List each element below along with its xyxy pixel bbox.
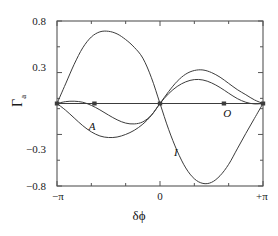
ytick-label-2: −0.3: [8, 143, 46, 155]
xtick-label-0: −π: [42, 190, 74, 202]
data-marker: [92, 102, 96, 106]
y-axis-title-symbol: Γ: [10, 99, 25, 107]
xtick-label-1: 0: [144, 190, 176, 202]
data-marker: [158, 102, 162, 106]
y-axis-title: Γa: [10, 75, 28, 127]
data-marker: [261, 102, 265, 106]
data-marker: [55, 102, 59, 106]
figure-container: 0.8 0.3 −0.3 −0.8 −π 0 +π Γa δϕ A I O: [0, 0, 278, 236]
curve-label-I: I: [174, 146, 178, 158]
xtick-label-2: +π: [246, 190, 278, 202]
curve-big-lobe: [57, 31, 263, 184]
ytick-label-3: −0.8: [8, 180, 46, 192]
data-marker: [222, 102, 226, 106]
x-axis-title: δϕ: [0, 208, 278, 224]
curve-label-A: A: [89, 120, 96, 132]
curve-label-O: O: [223, 107, 231, 119]
y-axis-title-wrap: Γa: [2, 86, 36, 120]
ytick-label-1: 0.3: [12, 61, 46, 73]
y-axis-title-subscript: a: [18, 95, 28, 99]
ytick-label-0: 0.8: [12, 15, 46, 27]
